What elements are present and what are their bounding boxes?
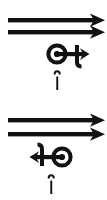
double-arrow-bottom-upper — [8, 114, 105, 127]
group-top — [8, 14, 105, 90]
group-bottom — [8, 114, 105, 194]
double-arrow-top-lower — [8, 26, 105, 39]
circled-dot-with-hooked-arrow-icon — [48, 45, 89, 67]
hooked-tick-mark-bottom — [49, 175, 54, 194]
diagram-svg — [0, 0, 107, 200]
diagram-canvas: Mirrored arrow and circled-dot symbol di… — [0, 0, 107, 200]
hooked-tick-mark-top — [55, 71, 60, 90]
double-arrow-bottom-lower — [8, 128, 105, 141]
double-arrow-top-upper — [8, 14, 105, 27]
hooked-arrow-with-circled-dot-icon — [30, 145, 71, 167]
